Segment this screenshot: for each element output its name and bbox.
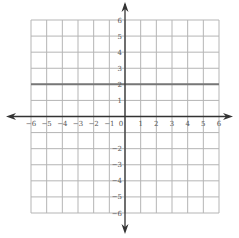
x-axis-tick-labels: −6−5−4−3−2−10123456 [26, 120, 222, 128]
x-tick-label: 6 [217, 120, 222, 128]
y-tick-label: −3 [112, 161, 122, 169]
y-tick-label: 1 [118, 97, 122, 105]
x-tick-label: −5 [42, 120, 52, 128]
x-tick-label: −1 [104, 120, 114, 128]
y-tick-label: 2 [118, 81, 122, 89]
x-tick-label: 1 [138, 120, 142, 128]
x-tick-label: 4 [185, 120, 190, 128]
x-tick-label: 3 [170, 120, 174, 128]
x-tick-label: 0 [119, 120, 123, 128]
y-tick-label: −5 [112, 193, 122, 201]
y-tick-label: −4 [112, 177, 123, 185]
x-tick-label: −6 [26, 120, 37, 128]
y-tick-label: −6 [112, 210, 123, 218]
y-tick-label: 4 [118, 49, 123, 57]
x-tick-label: −4 [57, 120, 68, 128]
coordinate-plane: −6−5−4−3−2−10123456 654321−2−3−4−5−6 [0, 0, 239, 238]
y-tick-label: 3 [118, 65, 122, 73]
y-tick-label: 5 [118, 33, 122, 41]
x-tick-label: 5 [201, 120, 205, 128]
x-tick-label: −3 [73, 120, 83, 128]
y-tick-label: 6 [118, 17, 123, 25]
y-tick-label: −2 [112, 145, 122, 153]
x-tick-label: −2 [89, 120, 99, 128]
x-tick-label: 2 [154, 120, 158, 128]
